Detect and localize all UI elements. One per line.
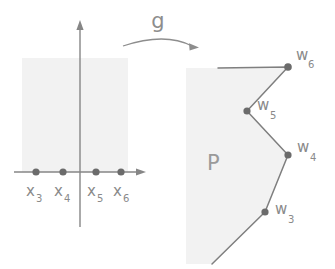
prevertex-dot-x6 xyxy=(117,168,124,175)
prevertex-label-x4: x 4 xyxy=(54,182,70,204)
imaginary-axis-arrowhead xyxy=(76,20,83,30)
prevertex-label-x6-base: x xyxy=(113,182,122,200)
polygon-vertex-label-w3-base: w xyxy=(275,200,287,218)
polygon-vertex-label-w5: w 5 xyxy=(257,96,276,121)
polygon-vertex-dot-w5 xyxy=(243,107,250,114)
prevertex-label-x3: x 3 xyxy=(26,182,42,204)
image-panel: P w 6 w 5 w 4 w 3 xyxy=(186,46,316,264)
figure-root: x 3 x 4 x 5 x 6 g xyxy=(0,0,335,269)
prevertex-label-x5-base: x xyxy=(87,182,96,200)
map-arrow-group: g xyxy=(123,9,199,51)
polygon-vertex-label-w6: w 6 xyxy=(296,46,314,70)
polygon-vertex-dot-w3 xyxy=(261,208,268,215)
polygon-vertex-dot-w4 xyxy=(284,151,291,158)
prevertex-dot-x5 xyxy=(92,168,99,175)
polygon-vertex-label-w6-base: w xyxy=(296,46,308,64)
prevertex-label-x5: x 5 xyxy=(87,182,103,204)
domain-panel: x 3 x 4 x 5 x 6 xyxy=(14,20,146,227)
prevertex-label-x4-sub: 4 xyxy=(64,193,70,204)
polygon-vertex-label-w3: w 3 xyxy=(275,200,294,225)
diagram-canvas: x 3 x 4 x 5 x 6 g xyxy=(0,0,335,269)
real-axis-arrowhead xyxy=(136,168,146,175)
region-label-p: P xyxy=(207,151,220,175)
polygon-vertex-label-w5-base: w xyxy=(257,96,269,114)
map-arrow-head xyxy=(189,43,199,50)
prevertex-label-x6-sub: 6 xyxy=(123,193,129,204)
prevertex-label-x3-sub: 3 xyxy=(36,193,42,204)
polygon-vertex-label-w6-sub: 6 xyxy=(308,59,314,70)
prevertex-label-x5-sub: 5 xyxy=(97,193,103,204)
map-label-g: g xyxy=(151,9,164,33)
prevertex-label-x4-base: x xyxy=(54,182,63,200)
prevertex-dot-x4 xyxy=(59,168,66,175)
prevertex-dot-x3 xyxy=(32,168,39,175)
polygon-vertex-label-w4-sub: 4 xyxy=(310,152,316,163)
polygon-vertex-dot-w6 xyxy=(284,63,292,71)
polygon-vertex-label-w5-sub: 5 xyxy=(270,110,276,121)
prevertex-label-x6: x 6 xyxy=(113,182,129,204)
polygon-vertex-label-w3-sub: 3 xyxy=(288,214,294,225)
upper-half-plane-shading xyxy=(22,58,128,172)
polygon-p-shading xyxy=(186,67,288,264)
polygon-vertex-label-w4: w 4 xyxy=(297,138,316,163)
polygon-vertex-label-w4-base: w xyxy=(297,138,309,156)
prevertex-label-x3-base: x xyxy=(26,182,35,200)
map-arrow-curve xyxy=(123,39,192,46)
